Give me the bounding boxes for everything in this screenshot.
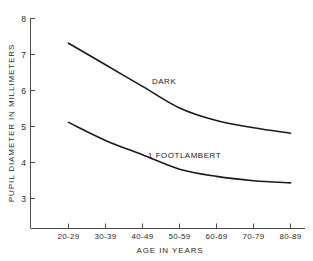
- y-tick-label-4: 4: [21, 158, 26, 168]
- x-axis-title: AGE IN YEARS: [136, 246, 203, 255]
- y-tick-label-3: 3: [21, 194, 26, 204]
- pupil-diameter-line-chart: 8 7 6 5 4 3 20-29 30-39 40-49 50-59 60-6…: [0, 0, 313, 261]
- y-tick-label-6: 6: [21, 86, 26, 96]
- chart-figure: 8 7 6 5 4 3 20-29 30-39 40-49 50-59 60-6…: [0, 0, 313, 261]
- x-tick-label-20-29: 20-29: [58, 232, 80, 241]
- x-tick-label-60-69: 60-69: [206, 232, 228, 241]
- y-axis-title: PUPIL DIAMETER IN MILLIMETERS: [7, 44, 16, 202]
- series-label-1-footlambert: 1 FOOTLAMBERT: [148, 151, 221, 160]
- y-tick-label-7: 7: [21, 50, 26, 60]
- y-tick-label-5: 5: [21, 122, 26, 132]
- x-tick-label-30-39: 30-39: [95, 232, 117, 241]
- x-tick-label-40-49: 40-49: [132, 232, 154, 241]
- y-tick-label-8: 8: [21, 14, 26, 24]
- series-label-dark: DARK: [152, 77, 176, 86]
- x-tick-label-50-59: 50-59: [169, 232, 191, 241]
- x-tick-label-70-79: 70-79: [243, 232, 265, 241]
- x-tick-label-80-89: 80-89: [280, 232, 302, 241]
